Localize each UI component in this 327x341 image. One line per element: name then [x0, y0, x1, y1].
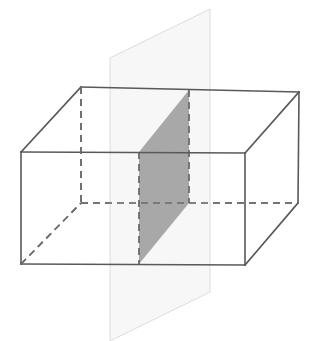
front-bottom-edge	[21, 264, 245, 265]
back-right-vertical-edge	[298, 92, 299, 203]
front-top-edge	[21, 152, 245, 153]
geometry-figure	[0, 0, 327, 341]
box-plane-intersection-diagram	[0, 0, 327, 341]
